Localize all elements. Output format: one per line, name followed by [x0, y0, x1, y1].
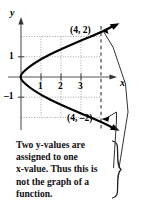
x-axis-label: x [120, 78, 125, 88]
caption-brace [113, 141, 122, 198]
caption-line-3: x-value. Thus this is [16, 163, 110, 175]
y-tick-label-1: 1 [9, 52, 14, 62]
caption-line-2: assigned to one [16, 151, 110, 163]
x-tick-label-2: 2 [58, 82, 63, 92]
x-tick-label-1: 1 [38, 82, 43, 92]
point-label-4-neg2: (4, –2) [67, 114, 92, 124]
pointer-arrow-lower [102, 116, 110, 121]
y-axis-arrowhead [18, 17, 23, 25]
point-label-4-2: (4, 2) [70, 26, 91, 36]
caption-text: Two y-values are assigned to one x-value… [16, 139, 110, 200]
caption-line-4: not the graph of a [16, 176, 110, 188]
caption-line-1: Two y-values are [16, 139, 110, 151]
x-tick-label-3: 3 [78, 82, 83, 92]
y-axis-label: y [10, 8, 14, 18]
caption-line-5: function. [16, 188, 110, 200]
y-tick-label-neg1: –1 [4, 92, 14, 102]
figure-container: y x 1 –1 1 2 3 (4, 2) (4, –2) Two y-valu… [0, 0, 143, 208]
x-axis-arrowhead [110, 74, 118, 79]
